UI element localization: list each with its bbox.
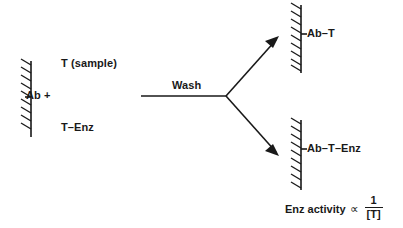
lower-branch-line <box>226 96 276 152</box>
top-right-solid-phase-support <box>291 3 307 73</box>
top-right-support-hatches <box>291 3 301 71</box>
enzyme-activity-relationship: Enz activity ∝ 1 [T] <box>285 196 383 221</box>
scheme-vector-layer <box>0 0 403 228</box>
reactant-sample-label: T (sample) <box>61 57 117 69</box>
fraction-numerator: 1 <box>368 195 378 207</box>
bottom-right-solid-phase-support <box>291 118 307 190</box>
inverse-concentration-fraction: 1 [T] <box>365 195 383 220</box>
product-ab-t-enz-label: Ab–T–Enz <box>307 142 361 154</box>
reactant-conjugate-label: T–Enz <box>61 121 94 133</box>
fraction-denominator: [T] <box>365 208 383 220</box>
upper-branch-line <box>226 40 276 96</box>
reactant-antibody-label: Ab + <box>26 89 51 101</box>
reaction-scheme-diagram: Ab + T (sample) T–Enz Wash Ab–T Ab–T–Enz… <box>0 0 403 228</box>
proportional-to-symbol: ∝ <box>350 202 359 216</box>
lower-branch-arrowhead <box>265 144 279 156</box>
upper-branch-arrowhead <box>265 36 279 48</box>
lower-branch-arrow <box>226 96 279 156</box>
product-ab-t-label: Ab–T <box>307 27 335 39</box>
enzyme-activity-text: Enz activity <box>285 203 346 215</box>
upper-branch-arrow <box>226 36 279 96</box>
wash-step-label: Wash <box>172 79 201 91</box>
bottom-right-support-hatches <box>291 118 301 188</box>
